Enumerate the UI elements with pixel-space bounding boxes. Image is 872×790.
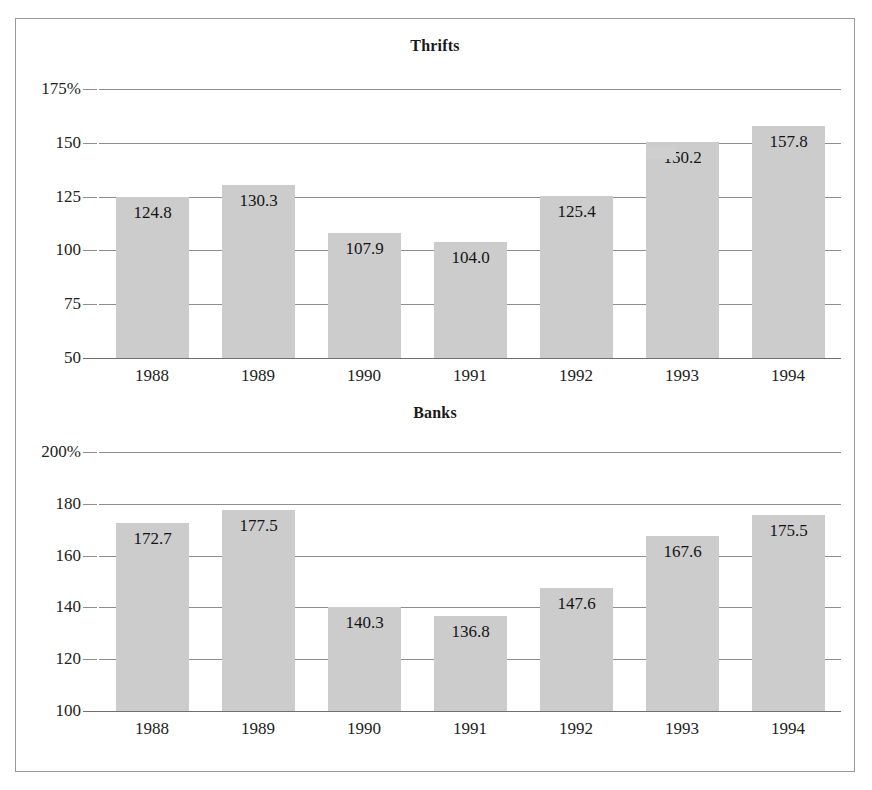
y-axis-tick-label: 120 xyxy=(16,649,81,669)
gridline xyxy=(99,504,841,505)
y-axis-tick-mark xyxy=(83,607,97,608)
y-axis-tick-mark xyxy=(83,659,97,660)
x-axis-tick-label: 1994 xyxy=(735,719,841,739)
bar xyxy=(752,515,825,711)
x-axis-tick-label: 1990 xyxy=(311,719,417,739)
bar-value-label: 167.6 xyxy=(646,542,719,562)
x-axis-tick-label: 1993 xyxy=(629,719,735,739)
y-axis-tick-mark xyxy=(83,452,97,453)
y-axis-tick-label: 160 xyxy=(16,546,81,566)
bar-value-label: 175.5 xyxy=(752,521,825,541)
bar-value-label: 177.5 xyxy=(222,516,295,536)
y-axis-tick-mark xyxy=(83,504,97,505)
y-axis-tick-label: 200% xyxy=(16,442,81,462)
x-axis-tick-label: 1991 xyxy=(417,719,523,739)
bar xyxy=(222,510,295,711)
x-axis-tick-label: 1988 xyxy=(99,719,205,739)
gridline xyxy=(99,452,841,453)
bar-value-label: 136.8 xyxy=(434,622,507,642)
y-axis-tick-label: 180 xyxy=(16,494,81,514)
y-axis-tick-label: 140 xyxy=(16,597,81,617)
y-axis-tick-label: 100 xyxy=(16,701,81,721)
y-axis-tick-mark xyxy=(83,556,97,557)
figure-border: Thrifts 175%1501251007550124.81988130.31… xyxy=(15,18,855,772)
bar-value-label: 140.3 xyxy=(328,613,401,633)
x-axis-tick-label: 1992 xyxy=(523,719,629,739)
bar-value-label: 147.6 xyxy=(540,594,613,614)
bar xyxy=(116,523,189,711)
gridline xyxy=(99,556,841,557)
x-axis-baseline xyxy=(83,711,841,712)
gridline xyxy=(99,607,841,608)
bar xyxy=(646,536,719,711)
figure-page: Thrifts 175%1501251007550124.81988130.31… xyxy=(0,0,872,790)
plot-area-banks: 200%180160140120100172.71988177.51989140… xyxy=(16,19,856,773)
x-axis-tick-label: 1989 xyxy=(205,719,311,739)
bar-value-label: 172.7 xyxy=(116,529,189,549)
